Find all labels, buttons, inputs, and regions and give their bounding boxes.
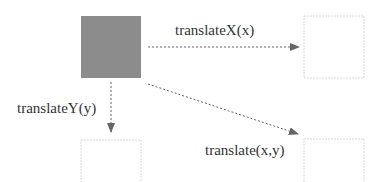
original-box <box>81 16 141 78</box>
translated-y-box <box>81 140 141 182</box>
label-translate-xy: translate(x,y) <box>205 142 285 159</box>
label-translate-x: translateX(x) <box>175 22 254 39</box>
translated-x-box <box>304 16 364 78</box>
label-translate-y: translateY(y) <box>17 100 96 117</box>
translate-diagram: translateX(x) translateY(y) translate(x,… <box>0 0 381 182</box>
translated-xy-box <box>304 139 364 182</box>
arrow-translate-xy <box>148 84 298 134</box>
